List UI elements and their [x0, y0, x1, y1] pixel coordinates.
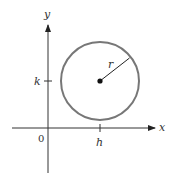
- center-point: [97, 78, 102, 83]
- radius-label: r: [108, 58, 114, 71]
- origin-label: 0: [38, 133, 44, 144]
- h-label: h: [96, 136, 103, 149]
- radius-line: [100, 58, 130, 81]
- k-label: k: [34, 75, 41, 88]
- circle-diagram: y x 0 k h r: [0, 0, 178, 189]
- x-axis-label: x: [159, 121, 166, 134]
- y-axis-label: y: [43, 8, 51, 21]
